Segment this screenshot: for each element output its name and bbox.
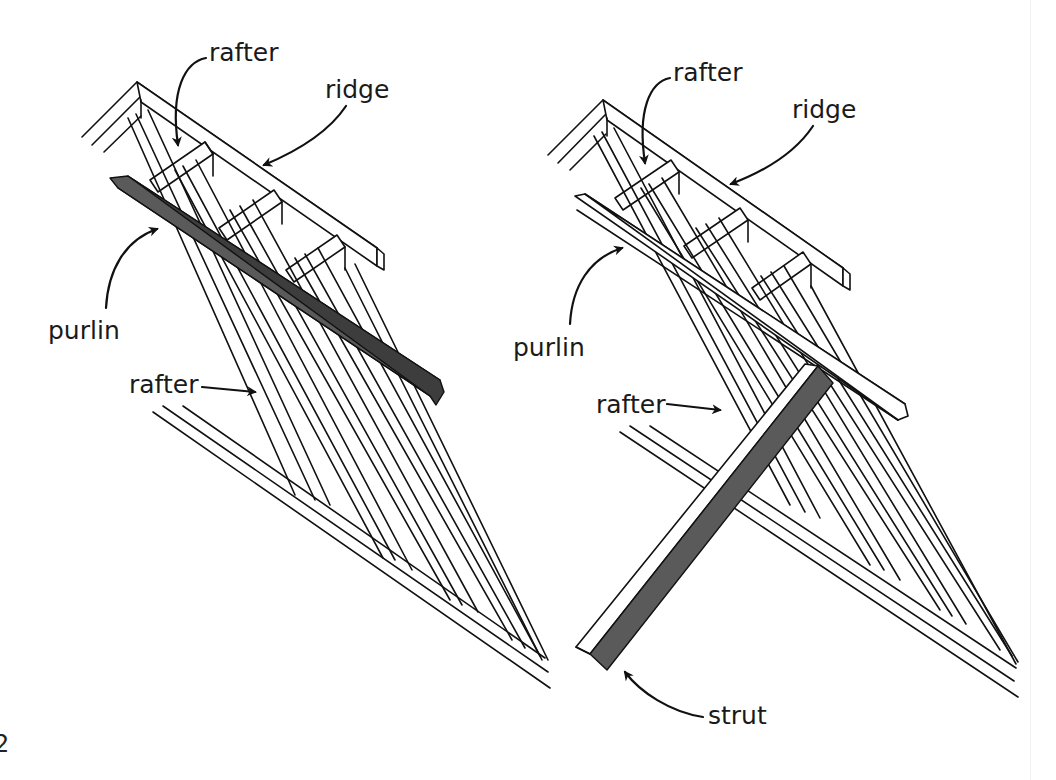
right-label-rafter-top: rafter [673, 60, 742, 85]
right-purlin-member [575, 194, 908, 420]
left-wall-plate [153, 406, 550, 688]
left-label-rafter-side: rafter [129, 372, 198, 397]
right-label-purlin: purlin [513, 335, 585, 360]
left-label-rafter-top: rafter [209, 40, 278, 65]
right-label-rafter-side: rafter [596, 392, 665, 417]
right-label-strut: strut [708, 703, 767, 728]
left-label-purlin: purlin [48, 318, 120, 343]
right-label-ridge: ridge [792, 97, 856, 122]
left-label-ridge: ridge [325, 77, 389, 102]
